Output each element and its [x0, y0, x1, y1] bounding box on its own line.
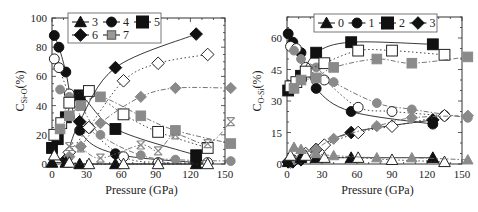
- x-tick-label: 150: [454, 168, 471, 180]
- y-tick-label: 30: [271, 95, 283, 107]
- circle-marker-icon: [56, 85, 65, 94]
- y-tick-label: 20: [36, 129, 48, 141]
- square-marker-icon: [64, 97, 75, 108]
- triangle-marker-icon: [407, 153, 417, 162]
- x-tick-label: 90: [150, 168, 162, 180]
- circle-marker-icon: [387, 107, 397, 117]
- square-marker-icon: [55, 124, 65, 134]
- legend-label: 7: [123, 28, 129, 42]
- y-axis-label: CSi-O(%): [13, 70, 29, 111]
- y-tick-label: 45: [271, 64, 283, 76]
- legend: 34567: [68, 13, 161, 43]
- square-marker-icon: [136, 111, 146, 121]
- triangle-marker-icon: [83, 158, 95, 169]
- circle-marker-icon: [329, 78, 338, 87]
- x-axis-label: Pressure (GPa): [341, 183, 413, 197]
- x-tick-label: 150: [217, 168, 234, 180]
- legend-label: 3: [430, 16, 436, 30]
- y-tick-label: 80: [36, 41, 48, 53]
- square-marker-icon: [226, 139, 236, 149]
- square-marker-icon: [439, 49, 450, 60]
- square-marker-icon: [296, 75, 306, 85]
- y-axis-label-unit: (%): [250, 70, 264, 88]
- x-tick-label: 90: [387, 168, 399, 180]
- square-marker-icon: [311, 47, 322, 58]
- diamond-marker-icon: [371, 121, 382, 132]
- circle-marker-icon: [96, 130, 105, 139]
- square-marker-icon: [65, 111, 75, 121]
- legend-label: 5: [154, 15, 160, 29]
- x-tick-label: 30: [81, 168, 93, 180]
- diamond-marker-icon: [170, 82, 181, 93]
- square-marker-icon: [311, 73, 321, 83]
- circle-marker-icon: [54, 63, 64, 73]
- y-axis-label: CO-Si(%): [250, 70, 266, 111]
- y-tick-label: 60: [36, 70, 48, 82]
- y-tick-label: 60: [271, 32, 283, 44]
- circle-marker-icon: [372, 99, 381, 108]
- circle-marker-icon: [136, 151, 145, 160]
- square-marker-icon: [463, 52, 473, 62]
- circle-marker-icon: [352, 18, 362, 28]
- square-marker-icon: [382, 17, 394, 29]
- square-marker-icon: [118, 109, 129, 120]
- square-marker-icon: [107, 31, 115, 39]
- circle-marker-icon: [290, 46, 299, 55]
- x-tick-label: 0: [284, 168, 290, 180]
- chart-canvas: 0306090120150020406080100Pressure (GPa)C…: [0, 0, 478, 212]
- x-tick-label: 30: [317, 168, 329, 180]
- square-marker-icon: [372, 54, 382, 64]
- square-marker-icon: [319, 58, 330, 69]
- legend: 0123: [314, 14, 437, 32]
- cross-marker-icon: [137, 141, 145, 149]
- y-tick-label: 0: [42, 158, 48, 170]
- square-marker-icon: [96, 92, 106, 102]
- square-marker-icon: [153, 126, 164, 137]
- x-tick-label: 60: [352, 168, 364, 180]
- circle-marker-icon: [297, 55, 306, 64]
- circle-marker-icon: [54, 42, 64, 52]
- y-tick-label: 100: [31, 12, 48, 24]
- triangle-marker-icon: [439, 156, 451, 167]
- y-tick-label: 40: [36, 100, 48, 112]
- square-marker-icon: [137, 16, 149, 28]
- legend-label: 0: [338, 16, 344, 30]
- triangle-marker-icon: [372, 153, 382, 162]
- diamond-marker-icon: [117, 74, 130, 87]
- y-tick-label: 0: [277, 158, 283, 170]
- diamond-marker-icon: [109, 61, 122, 74]
- circle-marker-icon: [171, 155, 180, 164]
- circle-marker-icon: [49, 31, 59, 41]
- y-axis-label-unit: (%): [13, 70, 27, 88]
- x-tick-label: 0: [49, 168, 55, 180]
- x-axis-label: Pressure (GPa): [105, 183, 177, 197]
- y-axis-label-subscript: Si-O: [20, 88, 29, 103]
- square-marker-icon: [329, 63, 339, 73]
- legend-label: 3: [92, 15, 98, 29]
- diamond-marker-icon: [328, 133, 339, 144]
- diamond-marker-icon: [152, 57, 165, 70]
- left-chart-panel: 0306090120150020406080100Pressure (GPa)C…: [13, 12, 236, 197]
- circle-marker-icon: [107, 17, 117, 27]
- triangle-marker-icon: [328, 150, 338, 159]
- square-marker-icon: [387, 45, 398, 56]
- x-tick-label: 120: [419, 168, 436, 180]
- triangle-marker-icon: [427, 152, 439, 163]
- y-axis-label-main: C: [250, 104, 264, 112]
- square-marker-icon: [353, 45, 364, 56]
- circle-marker-icon: [226, 157, 235, 166]
- cross-marker-icon: [227, 118, 235, 126]
- diamond-marker-icon: [95, 118, 106, 129]
- y-tick-label: 15: [271, 127, 283, 139]
- legend-label: 4: [123, 15, 129, 29]
- square-marker-icon: [76, 101, 86, 111]
- y-axis-label-subscript: O-Si: [257, 88, 266, 104]
- diamond-marker-icon: [190, 28, 203, 41]
- x-tick-label: 120: [182, 168, 199, 180]
- circle-marker-icon: [353, 102, 363, 112]
- legend-label: 1: [369, 16, 375, 30]
- triangle-marker-icon: [386, 154, 398, 165]
- y-axis-label-main: C: [13, 104, 27, 112]
- square-marker-icon: [427, 39, 438, 50]
- diamond-marker-icon: [225, 82, 236, 93]
